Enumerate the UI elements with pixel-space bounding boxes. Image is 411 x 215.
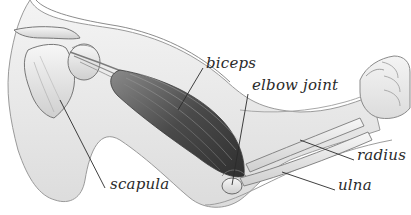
label-radius: radius: [357, 148, 406, 163]
label-elbow-joint: elbow joint: [252, 78, 338, 93]
label-biceps: biceps: [206, 56, 256, 71]
humerus-head: [68, 44, 100, 80]
leader-line-ulna: [282, 172, 335, 190]
label-ulna: ulna: [338, 178, 372, 193]
fist: [360, 56, 410, 119]
arm-anatomy-diagram: biceps elbow joint radius ulna scapula: [0, 0, 411, 215]
label-scapula: scapula: [110, 177, 169, 192]
